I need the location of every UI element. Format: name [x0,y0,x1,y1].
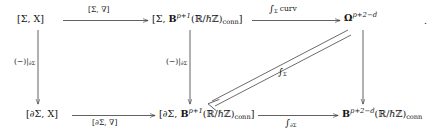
node-top-middle: [Σ, Bp+1(ℝ/ℏℤ)conn] [152,14,243,24]
label-top-mid-to-right: ∫Σcurv [269,4,297,14]
node-bottom-right-symbol: B [342,108,350,119]
trailing-period-text: . [424,15,427,26]
node-bottom-middle-group: (ℝ/ℏℤ) [203,108,235,119]
commutative-diagram: [Σ, X] [Σ, Bp+1(ℝ/ℏℤ)conn] Ωp+2−d [∂Σ, X… [0,0,437,134]
label-diagonal-double: ∫Σ [278,67,287,77]
node-bottom-middle-prefix: [∂Σ, [159,108,180,119]
node-bottom-middle-exponent: p+1 [188,107,202,115]
node-bottom-middle: [∂Σ, Bp+1(ℝ/ℏℤ)conn] [159,109,254,119]
node-top-right: Ωp+2−d [344,13,377,23]
node-bottom-left-text: [∂Σ, X] [26,108,58,119]
node-top-left: [Σ, X] [17,14,44,24]
label-mid-vertical-main: (−)| [166,57,181,66]
label-top-left-to-mid-prefix: [Σ, [88,5,101,14]
trailing-period: . [424,15,427,26]
node-bottom-right-subscript: conn [406,113,422,121]
node-bottom-left: [∂Σ, X] [26,109,58,119]
label-mid-vertical: (−)|∂Σ [166,58,187,66]
label-mid-vertical-subscript: ∂Σ [181,60,188,66]
label-top-left-to-mid: [Σ, ∇] [88,6,109,14]
label-bottom-left-to-mid-suffix: ] [114,118,117,127]
node-top-middle-symbol: B [168,13,176,24]
label-left-vertical-subscript: ∂Σ [29,60,36,66]
node-top-right-exponent: p+2−d [352,11,377,19]
node-bottom-right-exponent: p+2−d [350,107,375,115]
label-top-left-to-mid-suffix: ] [106,5,109,14]
label-top-mid-to-right-text: curv [278,4,297,13]
label-left-vertical: (−)|∂Σ [14,58,35,66]
node-top-middle-group: (ℝ/ℏℤ) [191,13,223,24]
node-bottom-right: Bp+2−d(ℝ/ℏℤ)conn [342,109,422,119]
node-bottom-middle-subscript: conn [234,113,250,121]
label-bottom-left-to-mid: [∂Σ, ∇] [92,119,117,127]
node-top-middle-subscript: conn [223,18,239,26]
node-top-middle-suffix: ] [239,13,243,24]
node-top-middle-exponent: p+1 [177,12,191,20]
node-bottom-right-group: (ℝ/ℏℤ) [375,108,407,119]
label-diagonal-double-subscript: Σ [283,71,287,77]
label-bottom-mid-to-right-subscript: ∂Σ [290,122,297,128]
node-bottom-middle-suffix: ] [251,108,255,119]
node-top-left-text: [Σ, X] [17,13,44,24]
label-bottom-mid-to-right: ∫∂Σ [285,118,296,128]
label-left-vertical-main: (−)| [14,57,29,66]
label-bottom-left-to-mid-prefix: [∂Σ, [92,118,109,127]
node-top-middle-prefix: [Σ, [152,13,168,24]
